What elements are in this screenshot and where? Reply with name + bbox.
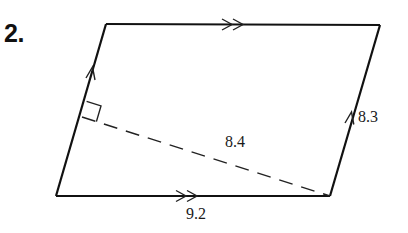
parallelogram-outline bbox=[56, 24, 380, 196]
parallelogram-diagram: 8.3 8.4 9.2 bbox=[0, 0, 408, 233]
height-dashed-line bbox=[82, 117, 330, 196]
left-side bbox=[56, 24, 106, 196]
problem-number: 2. bbox=[4, 19, 24, 48]
base-length-label: 9.2 bbox=[186, 205, 206, 222]
geometry-figure: 2. 8.3 8.4 bbox=[0, 0, 408, 233]
height-label: 8.4 bbox=[225, 133, 245, 150]
side-length-label: 8.3 bbox=[358, 108, 378, 125]
